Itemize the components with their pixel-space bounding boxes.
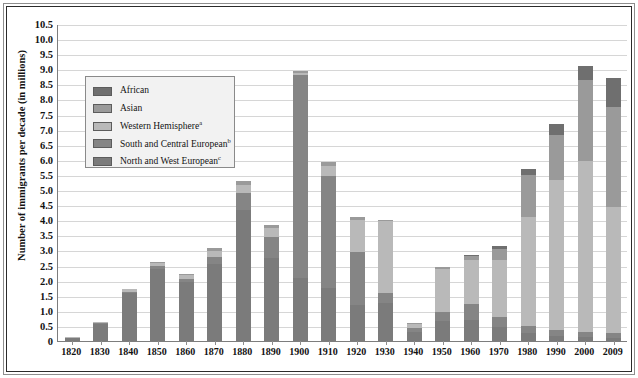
x-axis-tick <box>614 341 615 345</box>
legend-item-label: Asian <box>120 104 142 114</box>
legend-item: African <box>93 83 228 99</box>
bar-segment-asian <box>236 181 251 186</box>
bar-segment-asian <box>578 80 593 162</box>
bar-segment-north_west_european <box>122 293 137 341</box>
gridline <box>58 267 627 268</box>
bar-segment-western_hemisphere <box>179 275 194 279</box>
legend-item-label: North and West Europeanc <box>120 155 221 167</box>
bar-segment-south_central_european <box>150 266 165 268</box>
bar-1980 <box>521 213 536 341</box>
gridline <box>58 297 627 298</box>
bar-segment-western_hemisphere <box>122 289 137 291</box>
bar-1990 <box>549 124 564 341</box>
bar-segment-north_west_european <box>464 320 479 341</box>
bar-segment-western_hemisphere <box>207 251 222 257</box>
legend-item: South and Central Europeanb <box>93 136 228 152</box>
bar-segment-north_west_european <box>264 258 279 341</box>
bar-segment-south_central_european <box>578 332 593 337</box>
bar-segment-south_central_european <box>350 252 365 305</box>
bar-segment-western_hemisphere <box>606 207 621 334</box>
bar-segment-african <box>492 246 507 248</box>
bar-segment-western_hemisphere <box>93 322 108 323</box>
bar-segment-african <box>464 255 479 256</box>
gridline <box>58 206 627 207</box>
x-axis-tick <box>272 341 273 345</box>
legend-item: Asian <box>93 101 228 117</box>
bar-segment-asian <box>150 262 165 264</box>
bar-1920 <box>350 217 365 341</box>
gridline <box>58 221 627 222</box>
bar-segment-western_hemisphere <box>578 161 593 332</box>
bar-segment-north_west_european <box>492 327 507 341</box>
x-axis-tick <box>386 341 387 345</box>
bar-segment-asian <box>521 175 536 217</box>
bar-segment-western_hemisphere <box>492 260 507 317</box>
bar-segment-north_west_european <box>407 332 422 341</box>
bar-1830 <box>93 322 108 341</box>
legend-item-label: South and Central Europeanb <box>120 138 231 150</box>
bar-1930 <box>378 325 393 341</box>
legend-swatch-icon <box>93 87 112 96</box>
x-axis-tick <box>158 341 159 345</box>
y-axis-title: Number of immigrants per decade (in mill… <box>16 6 27 306</box>
x-axis-tick <box>186 341 187 345</box>
bar-segment-western_hemisphere <box>65 337 80 338</box>
legend-item: North and West Europeanc <box>93 153 228 169</box>
bar-segment-african <box>521 169 536 175</box>
gridline <box>58 191 627 192</box>
bar-segment-south_central_european <box>264 237 279 258</box>
x-axis-tick <box>357 341 358 345</box>
bar-1870 <box>207 248 222 341</box>
bar-segment-north_west_european <box>350 305 365 341</box>
bar-segment-north_west_european <box>93 324 108 342</box>
bar-segment-western_hemisphere <box>350 220 365 252</box>
bar-1960 <box>464 264 479 341</box>
bar-segment-north_west_european <box>179 282 194 341</box>
bar-segment-south_central_european <box>464 304 479 320</box>
bar-segment-south_central_european <box>236 193 251 210</box>
bar-segment-western_hemisphere <box>464 260 479 304</box>
chart-legend: AfricanAsianWestern HemisphereaSouth and… <box>85 76 235 168</box>
bar-1910 <box>321 162 336 341</box>
legend-item-label: Western Hemispherea <box>120 120 202 132</box>
bar-segment-asian <box>492 249 507 260</box>
bar-segment-south_central_european <box>122 292 137 293</box>
gridline <box>58 327 627 328</box>
bar-segment-western_hemisphere <box>150 263 165 266</box>
legend-swatch-icon <box>93 157 112 166</box>
x-axis-tick <box>72 341 73 345</box>
bar-segment-south_central_european <box>293 75 308 277</box>
bar-segment-western_hemisphere <box>407 324 422 329</box>
bar-segment-south_central_european <box>179 279 194 282</box>
figure-container: Number of immigrants per decade (in mill… <box>0 0 638 378</box>
x-axis-tick <box>500 341 501 345</box>
bar-segment-south_central_european <box>378 293 393 303</box>
bar-segment-asian <box>264 225 279 227</box>
bar-segment-asian <box>549 135 564 180</box>
bar-1890 <box>264 225 279 341</box>
bar-segment-north_west_european <box>150 269 165 341</box>
bar-segment-south_central_european <box>549 330 564 336</box>
x-axis-tick <box>215 341 216 345</box>
x-axis-tick <box>443 341 444 345</box>
x-axis-tick <box>243 341 244 345</box>
bar-segment-north_west_european <box>321 288 336 341</box>
gridline <box>58 176 627 177</box>
gridline <box>58 312 627 313</box>
gridline <box>58 236 627 237</box>
bar-segment-western_hemisphere <box>378 221 393 293</box>
bar-segment-western_hemisphere <box>264 228 279 237</box>
bar-2000 <box>578 66 593 341</box>
bar-1840 <box>122 289 137 341</box>
gridline <box>58 251 627 252</box>
bar-segment-south_central_european <box>93 323 108 324</box>
bar-segment-north_west_european <box>207 264 222 341</box>
bar-1950 <box>435 310 450 341</box>
bar-segment-asian <box>207 248 222 252</box>
bar-segment-north_west_european <box>435 321 450 341</box>
bar-segment-western_hemisphere <box>521 217 536 326</box>
x-axis-tick <box>471 341 472 345</box>
x-axis-tick <box>585 341 586 345</box>
bar-segment-western_hemisphere <box>435 269 450 313</box>
bar-1940 <box>407 323 422 341</box>
